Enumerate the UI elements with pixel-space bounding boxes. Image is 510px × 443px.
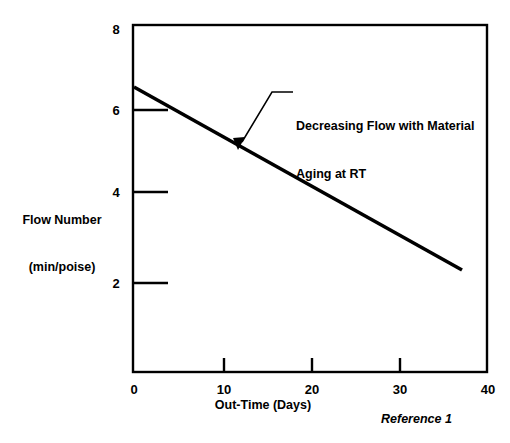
x-tick-label-20: 20 — [301, 382, 323, 397]
x-tick-label-10: 10 — [213, 382, 235, 397]
x-tick-label-40: 40 — [477, 382, 499, 397]
x-axis-title: Out-Time (Days) — [193, 398, 333, 413]
x-tick-label-30: 30 — [389, 382, 411, 397]
y-axis-title-line2: (min/poise) — [6, 260, 118, 276]
x-axis-ticks — [224, 358, 400, 372]
annotation-text-line2: Aging at RT — [296, 166, 475, 182]
annotation-text-line1: Decreasing Flow with Material — [296, 118, 475, 134]
annotation-leader — [242, 92, 293, 142]
y-axis-title-line1: Flow Number — [6, 213, 118, 229]
y-tick-label-8: 8 — [105, 22, 127, 37]
annotation-text: Decreasing Flow with Material Aging at R… — [296, 85, 475, 215]
chart-figure: 8 6 4 2 0 10 20 30 40 Flow Number (min/p… — [0, 0, 510, 443]
y-tick-label-6: 6 — [105, 103, 127, 118]
x-tick-label-0: 0 — [123, 382, 145, 397]
y-axis-ticks — [133, 110, 168, 283]
annotation-leader-path — [242, 92, 293, 142]
reference-footnote: Reference 1 — [381, 412, 452, 427]
y-axis-title: Flow Number (min/poise) — [6, 182, 118, 307]
